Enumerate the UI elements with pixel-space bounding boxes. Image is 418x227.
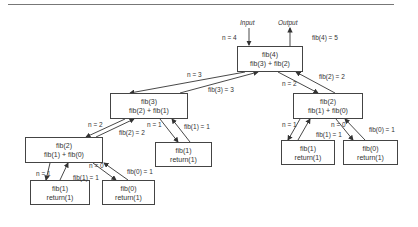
- node-title: fib(1): [176, 146, 192, 155]
- edge-label: n = 0: [89, 162, 104, 170]
- node-expr: fib(3) + fib(2): [250, 59, 290, 68]
- edge-label: n = 4: [222, 34, 237, 42]
- node-title: fib(2): [320, 97, 336, 106]
- node-title: fib(1): [300, 144, 316, 153]
- edge-label: n = 0: [331, 121, 346, 129]
- input-label: Input: [240, 19, 254, 27]
- node-title: fib(2): [56, 141, 72, 150]
- node-title: fib(1): [52, 184, 68, 193]
- node-fib1-leftleft: fib(1) return(1): [30, 180, 90, 205]
- edge-label: fib(2) = 2: [319, 73, 345, 81]
- node-expr: fib(1) + fib(0): [308, 106, 348, 115]
- edge-label: fib(1) = 1: [184, 123, 210, 131]
- edge-label: n = 2: [282, 80, 297, 88]
- edge-label: n = 1: [282, 121, 297, 129]
- edge-label: n = 3: [187, 71, 202, 79]
- edge-label: fib(1) = 1: [316, 131, 342, 139]
- node-fib0-leftleft: fib(0) return(1): [102, 180, 155, 205]
- node-fib2-right: fib(2) fib(1) + fib(0): [293, 93, 363, 119]
- node-fib3: fib(3) fib(2) + fib(1): [110, 93, 188, 119]
- edge-label: fib(2) = 2: [119, 129, 145, 137]
- edge-label: n = 2: [88, 121, 103, 129]
- node-expr: fib(2) + fib(1): [129, 106, 169, 115]
- node-title: fib(0): [363, 144, 379, 153]
- edge-label: fib(3) = 3: [208, 86, 234, 94]
- edge-label: fib(1) = 1: [73, 174, 99, 182]
- node-title: fib(3): [141, 97, 157, 106]
- node-title: fib(0): [121, 184, 137, 193]
- node-fib1-mid: fib(1) return(1): [155, 142, 212, 167]
- node-fib1-right: fib(1) return(1): [281, 140, 335, 165]
- node-title: fib(4): [262, 50, 278, 59]
- edge-label: n = 1: [147, 121, 162, 129]
- edge-label: fib(4) = 5: [312, 34, 338, 42]
- node-expr: fib(1) + fib(0): [44, 150, 84, 159]
- edge-label: fib(0) = 1: [127, 168, 153, 176]
- node-fib4: fib(4) fib(3) + fib(2): [237, 46, 303, 72]
- edge-label: fib(0) = 1: [369, 126, 395, 134]
- output-label: Output: [278, 19, 298, 27]
- node-expr: return(1): [357, 153, 384, 162]
- node-expr: return(1): [295, 153, 322, 162]
- node-expr: return(1): [47, 193, 74, 202]
- node-fib0-right: fib(0) return(1): [343, 140, 398, 165]
- edge-label: n = 1: [36, 170, 51, 178]
- node-expr: return(1): [115, 193, 142, 202]
- node-fib2-left: fib(2) fib(1) + fib(0): [25, 137, 103, 163]
- node-expr: return(1): [170, 155, 197, 164]
